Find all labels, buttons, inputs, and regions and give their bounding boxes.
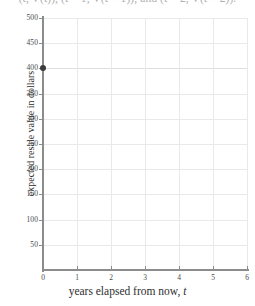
x-axis-title-text: years elapsed from now, <box>69 285 184 297</box>
y-tick-mark <box>39 18 44 19</box>
resale-value-chart: 50100150200250300350400450500 0123456 ex… <box>0 0 255 306</box>
gridline-vertical <box>145 18 146 270</box>
y-axis-title: expected resale value in dollars <box>25 34 36 234</box>
gridline-vertical <box>111 18 112 270</box>
x-axis-title-variable: t <box>183 285 186 297</box>
gridline-vertical <box>179 18 180 270</box>
y-tick-mark <box>39 43 44 44</box>
plot-area <box>43 18 247 270</box>
data-point <box>40 65 46 71</box>
y-tick-mark <box>39 144 44 145</box>
y-tick-mark <box>39 245 44 246</box>
x-tick-mark <box>145 266 146 271</box>
x-tick-mark <box>213 266 214 271</box>
y-tick-mark <box>39 169 44 170</box>
x-axis-title: years elapsed from now, t <box>0 285 255 298</box>
y-tick-mark <box>39 119 44 120</box>
y-tick-mark <box>39 220 44 221</box>
y-tick-label: 50 <box>4 241 38 249</box>
x-tick-mark <box>179 266 180 271</box>
gridline-vertical <box>247 18 248 270</box>
x-tick-label: 6 <box>237 273 255 282</box>
x-tick-label: 4 <box>169 273 189 282</box>
x-tick-label: 5 <box>203 273 223 282</box>
x-tick-label: 2 <box>101 273 121 282</box>
x-tick-mark <box>111 266 112 271</box>
y-tick-mark <box>39 194 44 195</box>
y-tick-label: 500 <box>4 14 38 22</box>
x-tick-mark <box>247 266 248 271</box>
gridline-vertical <box>77 18 78 270</box>
x-tick-mark <box>77 266 78 271</box>
gridline-vertical <box>213 18 214 270</box>
x-tick-label: 3 <box>135 273 155 282</box>
y-tick-mark <box>39 94 44 95</box>
x-tick-label: 0 <box>33 273 53 282</box>
x-tick-label: 1 <box>67 273 87 282</box>
